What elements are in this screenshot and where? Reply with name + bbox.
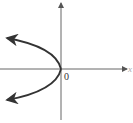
parabola-lower-branch bbox=[7, 69, 61, 100]
parabola-upper-branch bbox=[7, 38, 61, 69]
x-axis-label: x bbox=[127, 64, 132, 74]
parabola-graph: 0 x bbox=[0, 0, 133, 123]
origin-label: 0 bbox=[64, 71, 69, 82]
